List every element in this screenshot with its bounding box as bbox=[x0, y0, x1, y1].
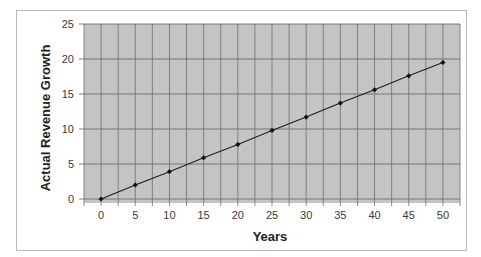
x-axis-title: Years bbox=[253, 229, 288, 244]
x-tick-label: 15 bbox=[198, 209, 210, 221]
x-tick-label: 5 bbox=[132, 209, 138, 221]
x-tick-label: 40 bbox=[368, 209, 380, 221]
x-axis-ticks: 05101520253035404550 bbox=[98, 209, 449, 221]
y-tick-label: 25 bbox=[62, 18, 74, 30]
x-tick-label: 45 bbox=[403, 209, 415, 221]
x-tick-label: 30 bbox=[300, 209, 312, 221]
x-tick-label: 35 bbox=[334, 209, 346, 221]
y-tick-label: 15 bbox=[62, 88, 74, 100]
y-axis-ticks: 0510152025 bbox=[62, 18, 74, 205]
y-axis-title: Actual Revenue Growth bbox=[38, 45, 53, 192]
x-tick-label: 20 bbox=[232, 209, 244, 221]
line-chart: 0510152025 05101520253035404550 Years Ac… bbox=[0, 0, 481, 257]
x-tick-label: 10 bbox=[163, 209, 175, 221]
x-tick-label: 25 bbox=[266, 209, 278, 221]
y-tick-label: 20 bbox=[62, 53, 74, 65]
y-tick-label: 0 bbox=[68, 193, 74, 205]
y-tick-label: 10 bbox=[62, 123, 74, 135]
y-tick-label: 5 bbox=[68, 158, 74, 170]
x-tick-label: 50 bbox=[437, 209, 449, 221]
x-tick-label: 0 bbox=[98, 209, 104, 221]
